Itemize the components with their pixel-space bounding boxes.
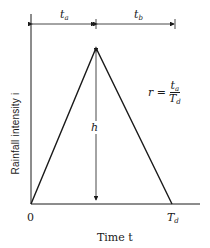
td-label: Td: [167, 212, 179, 223]
ratio-lhs: r =: [148, 86, 166, 99]
x-axis-label: Time t: [97, 232, 133, 243]
peak-height-label: h: [91, 121, 98, 134]
ratio-denominator: Td: [169, 93, 181, 105]
origin-label: 0: [27, 212, 34, 223]
ratio-formula: r = ta Td: [148, 80, 181, 105]
ta-label: ta: [60, 9, 69, 20]
triangle-hyetograph: [31, 48, 172, 204]
y-axis-label: Rainfall intensity i: [10, 89, 21, 179]
tb-label: tb: [134, 9, 143, 20]
